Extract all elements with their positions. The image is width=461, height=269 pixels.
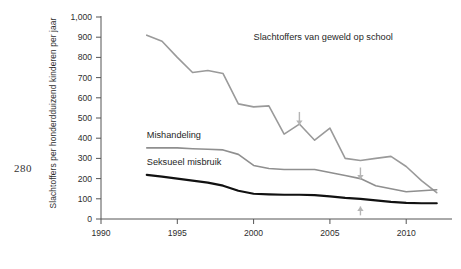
x-tick-label: 2000	[244, 228, 263, 238]
series-labels: Slachtoffers van geweld op schoolMishand…	[147, 32, 393, 167]
x-tick-label: 1995	[168, 228, 187, 238]
series-label-2: Seksueel misbruik	[147, 157, 222, 167]
data-series	[147, 35, 437, 203]
y-tick-label: 0	[87, 214, 92, 224]
arrow-2007-up-head	[357, 206, 363, 211]
axes	[101, 16, 452, 219]
y-tick-label: 300	[78, 153, 93, 163]
series-line-1	[147, 148, 437, 192]
y-axis-ticks: 01002003004005006007008009001,000	[70, 12, 101, 224]
line-chart: 01002003004005006007008009001,000 199019…	[0, 0, 461, 269]
figure-container: 280 Slachtoffers per honderdduizend kind…	[0, 0, 461, 269]
arrow-2007-up	[357, 206, 363, 215]
x-axis-ticks: 19901995200020052010	[91, 219, 416, 238]
series-label-1: Mishandeling	[147, 130, 201, 140]
y-tick-label: 400	[78, 133, 93, 143]
series-label-0: Slachtoffers van geweld op school	[254, 32, 393, 42]
y-tick-label: 700	[78, 73, 93, 83]
arrow-2003-down	[296, 112, 302, 125]
arrow-2003-down-head	[296, 121, 302, 126]
y-tick-label: 600	[78, 93, 93, 103]
x-tick-label: 2010	[397, 228, 416, 238]
y-tick-label: 500	[78, 113, 93, 123]
y-tick-label: 200	[78, 174, 93, 184]
y-tick-label: 800	[78, 52, 93, 62]
y-tick-label: 900	[78, 32, 93, 42]
y-tick-label: 100	[78, 194, 93, 204]
x-tick-label: 2005	[320, 228, 339, 238]
x-tick-label: 1990	[91, 228, 110, 238]
y-tick-label: 1,000	[70, 12, 92, 22]
